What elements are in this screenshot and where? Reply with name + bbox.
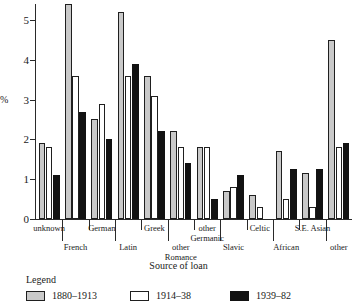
bar <box>276 151 283 219</box>
bar <box>197 147 204 219</box>
bar <box>53 175 60 219</box>
bar <box>316 169 323 219</box>
x-category-label: French <box>46 243 106 253</box>
bar <box>343 143 350 219</box>
legend: 1880–19131914–381939–82 <box>26 290 346 304</box>
bar <box>151 96 158 219</box>
legend-swatch-gray <box>26 291 45 301</box>
legend-label: 1880–1913 <box>52 290 97 301</box>
x-axis-title: Source of loan <box>0 260 357 271</box>
bar <box>125 76 132 219</box>
legend-swatch-black <box>230 291 249 301</box>
y-tick-label: 4 <box>0 55 29 66</box>
x-category-label: Celtic <box>230 224 290 234</box>
bar <box>283 199 290 219</box>
legend-label: 1939–82 <box>256 290 291 301</box>
bar <box>211 199 218 219</box>
legend-label: 1914–38 <box>156 290 191 301</box>
y-tick-mark <box>30 219 35 220</box>
bar <box>99 104 106 219</box>
legend-title: Legend <box>26 274 56 285</box>
y-tick-mark <box>30 20 35 21</box>
x-category-label: otherGermanic <box>177 224 237 243</box>
bar <box>118 12 125 219</box>
x-category-label: Latin <box>98 243 158 253</box>
y-tick-label: 5 <box>0 15 29 26</box>
y-tick-mark <box>30 100 35 101</box>
bar <box>302 173 309 219</box>
bar <box>290 169 297 219</box>
bar <box>328 40 335 219</box>
bar <box>336 147 343 219</box>
bar <box>72 76 79 219</box>
bar <box>257 207 264 219</box>
y-tick-label: 1 <box>0 174 29 185</box>
bar <box>185 163 192 219</box>
bar-chart: % 012345 unknownFrenchGermanLatinGreekot… <box>0 0 357 307</box>
bar <box>132 64 139 219</box>
y-tick-mark <box>30 139 35 140</box>
bar <box>178 147 185 219</box>
x-category-label: S.E. Asian <box>283 224 343 234</box>
bar <box>230 187 237 219</box>
legend-item: 1939–82 <box>230 290 291 301</box>
bar <box>170 131 177 219</box>
bar <box>65 4 72 219</box>
x-category-label: Greek <box>125 224 185 234</box>
bar <box>46 147 53 219</box>
y-tick-mark <box>30 179 35 180</box>
legend-swatch-white <box>130 291 149 301</box>
bar <box>91 119 98 219</box>
bar <box>204 147 211 219</box>
x-category-label: unknown <box>19 224 79 234</box>
y-tick-label: 3 <box>0 95 29 106</box>
bar <box>309 207 316 219</box>
x-category-label: German <box>72 224 132 234</box>
y-tick-label: 2 <box>0 134 29 145</box>
bar <box>79 112 86 220</box>
bar <box>249 195 256 219</box>
y-tick-mark <box>30 60 35 61</box>
bar <box>106 139 113 219</box>
x-category-label: other <box>309 243 357 253</box>
bar <box>39 143 46 219</box>
bar <box>237 175 244 219</box>
x-category-label: Slavic <box>204 243 264 253</box>
bar <box>144 76 151 219</box>
bar <box>158 131 165 219</box>
bar <box>223 191 230 219</box>
legend-item: 1914–38 <box>130 290 191 301</box>
bars-layer <box>36 4 352 219</box>
x-category-label: African <box>256 243 316 253</box>
legend-item: 1880–1913 <box>26 290 97 301</box>
